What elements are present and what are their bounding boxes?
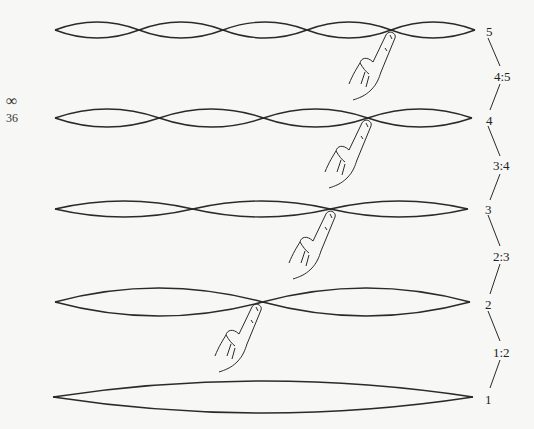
connector-line: [490, 84, 500, 110]
string-harmonic-5-upper: [55, 22, 475, 30]
connector-line: [488, 215, 500, 246]
string-harmonic-4-lower: [55, 118, 472, 127]
harmonic-label-4: 4: [486, 114, 493, 127]
connector-line: [490, 264, 500, 294]
harmonic-label-2: 2: [485, 298, 492, 311]
string-harmonic-5-lower: [55, 30, 475, 38]
connector-line: [488, 126, 500, 156]
connector-line: [490, 174, 500, 200]
ratio-label-1-2: 1:2: [493, 346, 510, 359]
harmonic-label-5: 5: [486, 25, 493, 38]
string-harmonic-1-lower: [53, 397, 473, 413]
connector-line: [488, 38, 500, 66]
pointing-hand-icon: [325, 120, 371, 188]
ratio-label-4-5: 4:5: [494, 70, 511, 83]
string-harmonic-1-upper: [53, 381, 473, 397]
string-harmonic-2-lower: [55, 302, 470, 316]
string-harmonic-4-upper: [55, 109, 472, 118]
string-harmonic-3-upper: [55, 201, 468, 209]
harmonic-label-3: 3: [485, 203, 492, 216]
connector-line: [490, 360, 500, 388]
ratio-label-2-3: 2:3: [493, 250, 510, 263]
harmonic-label-1: 1: [485, 393, 492, 406]
connector-line: [488, 311, 500, 341]
pointing-hand-icon: [215, 304, 261, 372]
harmonics-diagram: [0, 0, 534, 429]
string-harmonic-3-lower: [55, 209, 468, 217]
pointing-hand-icon: [349, 32, 395, 100]
string-harmonic-2-upper: [55, 288, 470, 302]
pointing-hand-icon: [289, 211, 335, 279]
ratio-label-3-4: 3:4: [493, 159, 510, 172]
